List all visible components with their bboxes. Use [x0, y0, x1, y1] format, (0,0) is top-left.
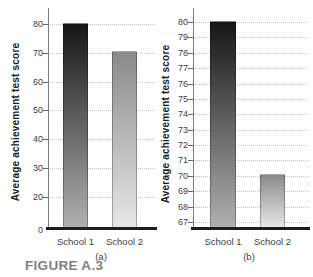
x-category-label: School 2	[246, 236, 300, 247]
y-axis-title: Average achievement test score	[9, 22, 23, 222]
bar-school-1	[210, 21, 236, 229]
bar-school-2	[112, 51, 137, 228]
bar-school-2	[260, 174, 285, 228]
figure-label: FIGURE A.3	[25, 258, 103, 273]
bar-school-1	[63, 23, 88, 229]
x-category-label: School 1	[196, 236, 250, 247]
panel-caption: (b)	[229, 251, 269, 262]
x-axis-line	[46, 227, 157, 230]
y-zero-label: 0	[14, 225, 43, 235]
x-category-label: School 2	[98, 236, 152, 247]
y-axis-title: Average achievement test score	[159, 24, 173, 224]
x-category-label: School 1	[49, 236, 103, 247]
x-axis-line	[191, 227, 310, 230]
y-axis-line	[193, 8, 194, 228]
y-axis-line	[48, 8, 49, 228]
figure-a3: 80706050403020School 1School 20Average a…	[0, 0, 313, 277]
